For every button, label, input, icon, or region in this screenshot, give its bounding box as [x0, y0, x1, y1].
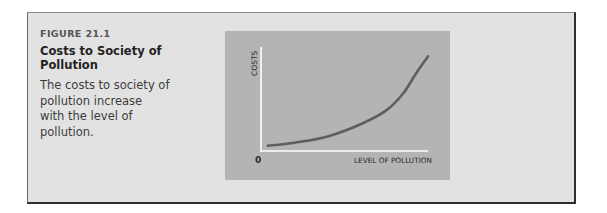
y-axis-label: COSTS [250, 51, 259, 76]
chart-plot: COSTS 0 LEVEL OF POLLUTION [225, 31, 450, 180]
chart-panel: COSTS 0 LEVEL OF POLLUTION [225, 31, 450, 180]
figure-description: The costs to society of pollution increa… [40, 78, 170, 140]
origin-label: 0 [255, 155, 261, 165]
figure-caption: FIGURE 21.1 Costs to Society of Pollutio… [40, 28, 210, 140]
figure-title: Costs to Society of Pollution [40, 44, 210, 72]
x-axis-label: LEVEL OF POLLUTION [354, 156, 432, 165]
cost-curve [268, 56, 428, 145]
figure-number: FIGURE 21.1 [40, 28, 210, 40]
